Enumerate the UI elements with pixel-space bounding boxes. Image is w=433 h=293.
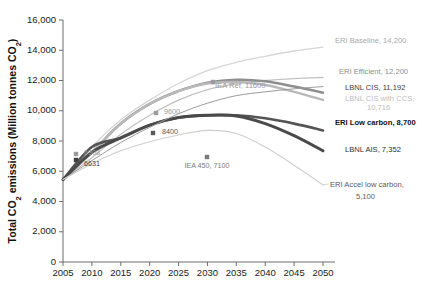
point-6908-label: 6908	[84, 148, 100, 157]
point-iea450-marker	[205, 155, 209, 159]
lbnl-cis-ccs-label-line1: LBNL CIS with CCS,	[345, 94, 414, 103]
y-axis-title: Total CO2 emissions (Million tonnes CO2)	[6, 39, 23, 244]
y-tick-label: 12,000	[27, 74, 56, 85]
y-tick-label: 10,000	[27, 104, 56, 115]
point-8400-label: 8400	[162, 127, 178, 136]
x-tick-label: 2035	[226, 267, 247, 278]
x-tick-label: 2045	[284, 267, 305, 278]
y-tick-label: 0	[51, 256, 56, 267]
point-6631-marker	[74, 158, 78, 162]
x-tick-label: 2010	[81, 267, 102, 278]
leader-line-eri-accel	[323, 184, 328, 185]
y-tick-label: 2,000	[32, 225, 56, 236]
point-6631-label: 6631	[84, 159, 100, 168]
lbnl-cis-ccs-label-line2: 10,716	[367, 103, 390, 112]
point-iea450-label: IEA 450, 7100	[184, 161, 229, 170]
x-tick-label: 2025	[168, 267, 189, 278]
eri-low-carbon-label: ERI Low carbon, 8,700	[335, 118, 416, 127]
y-tick-label: 6,000	[32, 165, 56, 176]
point-6908-marker	[74, 152, 78, 156]
y-tick-label: 8,000	[32, 135, 56, 146]
x-tick-label: 2020	[139, 267, 160, 278]
point-iea-ref-marker	[211, 80, 215, 84]
eri-accel-label-line1: ERI Accel low carbon,	[330, 180, 404, 189]
x-tick-label: 2030	[197, 267, 218, 278]
x-tick-label: 2015	[110, 267, 131, 278]
svg-text:Total CO2 emissions (Million t: Total CO2 emissions (Million tonnes CO2)	[6, 39, 23, 244]
series-line-eri-baseline	[63, 47, 323, 179]
co2-emissions-line-chart: 02,0004,0006,0008,00010,00012,00014,0001…	[0, 0, 433, 293]
y-tick-label: 16,000	[27, 14, 56, 25]
x-tick-label: 2040	[255, 267, 276, 278]
eri-efficient-label: ERI Efficient, 12,200	[339, 67, 408, 76]
eri-accel-label-line2: 5,100	[356, 192, 375, 201]
lbnl-ais-label: LBNL AIS, 7,352	[345, 145, 401, 154]
y-tick-label: 4,000	[32, 195, 56, 206]
series-line-eri-accel-low-carbon	[63, 130, 323, 185]
y-tick-label: 14,000	[27, 44, 56, 55]
eri-baseline-label: ERI Baseline, 14,200	[335, 36, 406, 45]
point-8400-marker	[151, 131, 155, 135]
point-9600-marker	[154, 111, 158, 115]
chart-container: 02,0004,0006,0008,00010,00012,00014,0001…	[0, 0, 433, 293]
x-tick-label: 2050	[312, 267, 333, 278]
lbnl-cis-label: LBNL CIS, 11,192	[345, 83, 405, 92]
point-9600-label: 9600	[164, 107, 180, 116]
x-tick-label: 2005	[52, 267, 73, 278]
iea-ref-label: IEA Ref, 11600	[215, 81, 266, 90]
